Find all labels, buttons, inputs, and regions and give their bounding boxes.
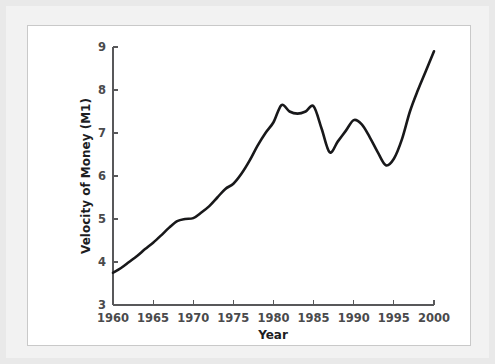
chart-panel xyxy=(27,25,471,346)
figure-root: 3456789 19601965197019751980198519901995… xyxy=(0,0,495,364)
